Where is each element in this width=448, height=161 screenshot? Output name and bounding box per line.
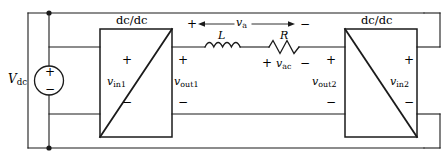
converter-left-title: dc/dc bbox=[116, 15, 147, 27]
inductor-symbol bbox=[205, 43, 240, 48]
converter-left-in-plus: + bbox=[122, 54, 132, 66]
source-label: Vdc bbox=[8, 73, 27, 87]
vac-label-subscript: ac bbox=[282, 62, 291, 71]
vac-minus-sign: − bbox=[300, 57, 310, 69]
va-arrowhead-right bbox=[288, 21, 295, 27]
source-plus-sign: + bbox=[45, 66, 55, 78]
junction-dot-top bbox=[46, 10, 51, 15]
va-label-subscript: a bbox=[242, 21, 247, 30]
converter-left-in-subscript: in1 bbox=[113, 80, 126, 89]
converter-left-out-plus: + bbox=[178, 54, 188, 66]
vac-label: vac bbox=[276, 58, 292, 71]
converter-right-in-minus: − bbox=[404, 96, 414, 108]
resistor-label: R bbox=[280, 30, 288, 41]
converter-right-in-plus: + bbox=[404, 54, 414, 66]
va-minus-sign: − bbox=[300, 18, 310, 30]
source-label-symbol: V bbox=[8, 72, 17, 86]
converter-right-out-plus: + bbox=[326, 54, 336, 66]
resistor-symbol bbox=[269, 41, 299, 54]
converter-left-out-label: vout1 bbox=[174, 76, 199, 89]
converter-right-in-subscript: in2 bbox=[396, 80, 409, 89]
va-plus-sign: + bbox=[187, 18, 197, 30]
converter-left-out-subscript: out1 bbox=[180, 80, 198, 89]
source-minus-sign: − bbox=[45, 83, 55, 95]
vac-plus-sign: + bbox=[262, 57, 272, 69]
converter-left-out-minus: − bbox=[178, 96, 188, 108]
inductor-label: L bbox=[218, 30, 225, 41]
source-label-subscript: dc bbox=[17, 77, 28, 87]
converter-right-out-minus: − bbox=[326, 96, 336, 108]
converter-right-in-label: vin2 bbox=[390, 76, 409, 89]
converter-left-in-label: vin1 bbox=[107, 76, 126, 89]
va-label: va bbox=[236, 17, 247, 30]
converter-right-title: dc/dc bbox=[361, 15, 392, 27]
va-arrowhead-left bbox=[198, 21, 205, 27]
converter-right-out-subscript: out2 bbox=[318, 80, 336, 89]
converter-right-out-label: vout2 bbox=[312, 76, 337, 89]
circuit-diagram: Vdc + − dc/dc + vin1 − + vout1 − + va − … bbox=[0, 0, 448, 161]
converter-left-in-minus: − bbox=[122, 96, 132, 108]
junction-dot-bottom bbox=[46, 145, 51, 150]
